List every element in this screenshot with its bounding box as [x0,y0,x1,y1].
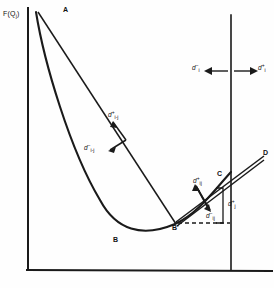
vector-label-d-plus-i: d+i [258,63,266,73]
vector-label-d-minus-i-minus-j: d−i-j [84,143,94,153]
vector-label-d-minus-i: d−i [192,63,200,73]
segment-Bprime-to-D-upper [176,156,264,222]
diagram-svg [0,0,274,288]
y-axis-label-tail: ) [17,10,20,17]
y-axis-label: F(Qj) [3,10,20,19]
vector-subscript: i [265,67,266,73]
point-label-D: D [263,149,268,156]
point-label-C: C [217,170,222,177]
frame-bottom-axis [27,270,272,271]
vector-subscript: i [199,67,200,73]
vector-subscript: i-j [115,114,119,120]
vector-subscript: j [235,203,236,209]
point-label-A: A [63,6,68,13]
vector-label-bracket-d-plus-j: d+j [228,199,236,209]
point-label-B-prime: B' [172,224,179,231]
chord-A-to-Bprime [38,12,176,224]
vector-subscript: i-j [91,147,95,153]
vector-subscript: ij [213,215,215,221]
arrow-d-minus-i-minus-j [110,140,126,150]
vector-subscript: ij [200,180,202,186]
vector-label-d-plus-ij: d+ij [193,176,202,186]
vector-label-d-plus-i-minus-j: d+i-j [108,110,118,120]
arrowhead-double-arrow-left [204,67,212,75]
figure-canvas: F(Qj) A B B' C D d+i-j d−i-j d−i d+i d+i… [0,0,274,288]
y-axis-label-head: F(Q [3,10,16,17]
arrowhead-double-arrow-right [250,67,258,75]
vector-label-d-minus-ij: d−ij [206,211,215,221]
point-label-B: B [113,236,118,243]
